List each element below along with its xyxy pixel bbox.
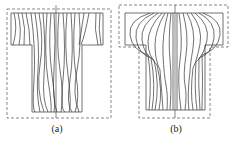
panel-a xyxy=(7,5,111,118)
panel-b-boundary xyxy=(119,5,228,118)
panel-b-label: (b) xyxy=(170,123,182,134)
panel-b xyxy=(119,5,228,118)
diagram-canvas xyxy=(0,0,235,141)
panel-a-label: (a) xyxy=(51,123,62,134)
panel-b-t-outline xyxy=(125,13,223,110)
